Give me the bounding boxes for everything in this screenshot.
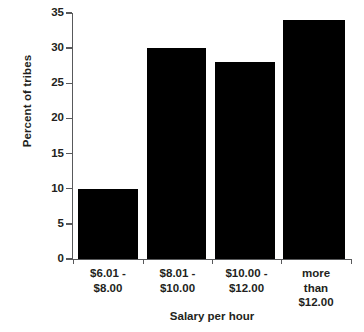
y-tick-label: 10 — [42, 183, 64, 195]
y-tick-mark — [66, 12, 72, 13]
x-tick-label-line: $8.01 - — [143, 266, 212, 281]
y-tick-label: 5 — [42, 218, 64, 230]
bar — [215, 62, 275, 259]
bar-chart: Percent of tribes 05101520253035 $6.01 -… — [0, 0, 364, 332]
y-tick-mark — [66, 258, 72, 259]
y-tick-label-wrap: 15 — [40, 148, 64, 160]
x-tick-label: morethan$12.00 — [281, 266, 351, 310]
x-tick-label-line: $8.00 — [73, 281, 143, 296]
y-tick-mark — [66, 83, 72, 84]
y-tick-label-wrap: 5 — [40, 218, 64, 230]
y-tick-label: 35 — [42, 7, 64, 19]
y-tick-label: 20 — [42, 112, 64, 124]
y-tick-label-wrap: 10 — [40, 183, 64, 195]
x-tick-mark — [143, 259, 144, 264]
y-axis-title: Percent of tribes — [21, 21, 33, 181]
x-tick-mark — [212, 259, 213, 264]
y-tick-label: 30 — [42, 42, 64, 54]
x-tick-label: $6.01 -$8.00 — [73, 266, 143, 295]
bar — [78, 189, 138, 259]
y-tick-label-wrap: 20 — [40, 112, 64, 124]
y-tick-label: 15 — [42, 148, 64, 160]
y-tick-mark — [66, 188, 72, 189]
x-axis-title: Salary per hour — [73, 310, 351, 322]
x-tick-label: $10.00 -$12.00 — [212, 266, 281, 295]
y-tick-label-wrap: 35 — [40, 7, 64, 19]
x-tick-label-line: $10.00 - — [212, 266, 281, 281]
y-tick-label-wrap: 0 — [40, 253, 64, 265]
y-tick-label: 0 — [42, 253, 64, 265]
x-tick-mark — [281, 259, 282, 264]
x-tick-label-line: $12.00 — [281, 295, 351, 310]
x-tick-mark — [351, 259, 352, 264]
y-tick-mark — [66, 223, 72, 224]
x-tick-label-line: $10.00 — [143, 281, 212, 296]
y-tick-label-wrap: 25 — [40, 77, 64, 89]
x-tick-label-line: more — [281, 266, 351, 281]
y-tick-label-wrap: 30 — [40, 42, 64, 54]
bar — [147, 48, 206, 259]
x-tick-label-line: $6.01 - — [73, 266, 143, 281]
x-tick-label-line: $12.00 — [212, 281, 281, 296]
y-tick-mark — [66, 153, 72, 154]
y-tick-label: 25 — [42, 77, 64, 89]
y-tick-mark — [66, 47, 72, 48]
y-tick-mark — [66, 118, 72, 119]
x-tick-label: $8.01 -$10.00 — [143, 266, 212, 295]
bar — [283, 20, 345, 259]
y-axis-line — [72, 13, 73, 260]
x-tick-mark — [73, 259, 74, 264]
x-tick-label-line: than — [281, 281, 351, 296]
